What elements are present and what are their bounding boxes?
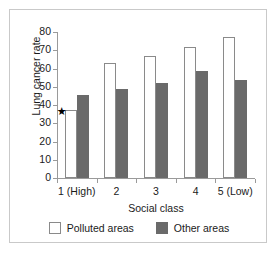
y-tick-mark [53, 50, 57, 51]
bar-polluted [184, 47, 196, 178]
y-tick-label: 10 [39, 153, 51, 165]
bar-group [144, 32, 168, 178]
x-tick-mark [136, 179, 137, 183]
y-tick-label: 60 [39, 62, 51, 74]
legend-swatch-polluted [49, 222, 61, 234]
x-tick-label: 3 [153, 185, 159, 197]
legend-entry: Other areas [156, 222, 229, 234]
legend-swatch-other [156, 222, 168, 234]
bar-polluted [144, 56, 156, 178]
y-tick-label: 50 [39, 80, 51, 92]
bar-polluted [65, 110, 77, 178]
bar-other [235, 80, 247, 178]
bar-other [77, 95, 89, 178]
star-marker-icon: ★ [57, 106, 67, 117]
x-tick-mark [97, 179, 98, 183]
bar-other [196, 71, 208, 178]
x-axis-title: Social class [57, 202, 255, 214]
y-tick-label: 80 [39, 25, 51, 37]
y-tick-label: 40 [39, 98, 51, 110]
x-tick-label: 2 [113, 185, 119, 197]
x-tick-label: 5 (Low) [218, 185, 253, 197]
bar-polluted [104, 63, 116, 178]
bar-group [65, 32, 89, 178]
bar-group [184, 32, 208, 178]
figure-frame: Lung cancer rate 01020304050607080 1 (Hi… [9, 9, 267, 243]
x-tick-mark [255, 179, 256, 183]
y-tick-mark [53, 32, 57, 33]
y-tick-label: 30 [39, 116, 51, 128]
legend-label: Other areas [174, 222, 229, 234]
chart-legend: Polluted areasOther areas [10, 222, 268, 234]
y-tick-label: 70 [39, 43, 51, 55]
legend-entry: Polluted areas [49, 222, 134, 234]
y-tick-mark [53, 160, 57, 161]
bar-other [116, 89, 128, 178]
bar-polluted [223, 37, 235, 178]
x-tick-label: 4 [193, 185, 199, 197]
plot-area: 01020304050607080 1 (High)2345 (Low) ★ [57, 32, 255, 179]
y-tick-mark [53, 123, 57, 124]
bar-group [223, 32, 247, 178]
bar-group [104, 32, 128, 178]
y-tick-mark [53, 69, 57, 70]
x-tick-mark [176, 179, 177, 183]
y-tick-label: 0 [45, 171, 51, 183]
x-tick-mark [215, 179, 216, 183]
x-tick-label: 1 (High) [58, 185, 95, 197]
y-tick-label: 20 [39, 135, 51, 147]
bar-other [156, 83, 168, 178]
x-tick-mark [57, 179, 58, 183]
legend-label: Polluted areas [67, 222, 134, 234]
y-tick-mark [53, 142, 57, 143]
y-tick-mark [53, 87, 57, 88]
x-axis-line [57, 178, 255, 179]
